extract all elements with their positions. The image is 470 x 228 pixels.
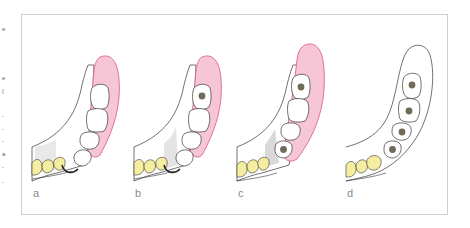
implant <box>298 84 305 91</box>
panel-label: d <box>347 187 353 199</box>
implant <box>280 146 287 153</box>
panel-label: a <box>33 187 39 199</box>
text-fragment: ( <box>2 88 4 94</box>
panel-label: b <box>135 187 141 199</box>
implant <box>399 129 406 136</box>
jaw-illustration-a <box>22 15 129 216</box>
panel-d: d <box>336 15 443 216</box>
text-fragment: a <box>2 151 5 157</box>
panel-label: c <box>238 187 244 199</box>
text-fragment: - <box>2 138 4 144</box>
jaw-illustration-d <box>336 15 443 216</box>
panel-a: a <box>22 15 129 216</box>
figure-frame: a b <box>21 14 448 215</box>
text-fragment: - <box>2 164 4 170</box>
panel-c: c <box>227 15 334 216</box>
text-fragment: - <box>2 179 4 185</box>
implant <box>389 146 396 153</box>
panel-b: b <box>124 15 231 216</box>
text-fragment: - <box>2 113 4 119</box>
implant <box>406 108 413 115</box>
jaw-illustration-c <box>227 15 334 216</box>
text-fragment: e <box>2 75 5 81</box>
cropped-adjacent-text: e e ( - - - a - - <box>0 0 8 228</box>
text-fragment: e <box>2 26 5 32</box>
implant <box>409 82 416 89</box>
implant <box>199 93 206 100</box>
text-fragment: - <box>2 126 4 132</box>
jaw-illustration-b <box>124 15 231 216</box>
